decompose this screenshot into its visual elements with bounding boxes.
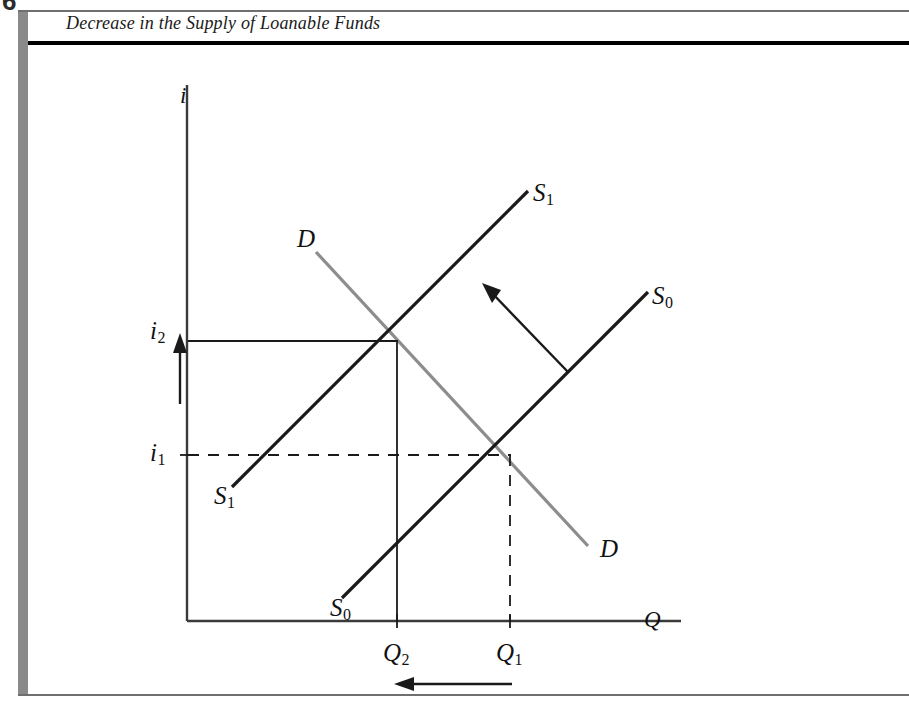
tick-label-i2: i2	[150, 318, 165, 346]
curve-label-s1-top-base: S	[533, 179, 546, 206]
tick-label-i2-sub: 2	[157, 329, 166, 346]
curve-label-s0-top-sub: 0	[665, 294, 674, 311]
tick-label-q1-sub: 1	[514, 651, 523, 668]
tick-label-q2-sub: 2	[401, 651, 410, 668]
supply-curve-s1	[232, 191, 528, 487]
tick-label-q2-base: Q	[383, 639, 401, 666]
x-axis-label: Q	[644, 608, 661, 631]
demand-curve	[316, 252, 588, 546]
loanable-funds-chart	[0, 0, 909, 709]
tick-label-q1-base: Q	[496, 639, 514, 666]
curve-label-d-top: D	[297, 226, 315, 251]
quantity-decrease-arrow	[394, 677, 512, 691]
interest-rate-increase-arrow	[173, 333, 187, 404]
curve-label-s1-bottom: S1	[214, 483, 235, 511]
curve-label-s0-bottom-sub: 0	[343, 606, 352, 623]
curve-label-s1-top-sub: 1	[546, 191, 555, 208]
y-axis-label: i	[180, 84, 186, 107]
tick-label-i1-sub: 1	[157, 451, 166, 468]
curve-label-s0-top-base: S	[652, 282, 665, 309]
tick-label-q1: Q1	[496, 640, 523, 668]
tick-label-q2: Q2	[383, 640, 410, 668]
curve-label-s0-top: S0	[652, 283, 673, 311]
curve-label-s1-top: S1	[533, 180, 554, 208]
tick-label-i1-base: i	[150, 439, 157, 466]
curve-label-s0-bottom: S0	[330, 595, 351, 623]
tick-label-i2-base: i	[150, 317, 157, 344]
curve-label-s1-bottom-base: S	[214, 482, 227, 509]
tick-label-i1: i1	[150, 440, 165, 468]
supply-shift-arrow	[482, 283, 568, 372]
curve-label-d-bottom: D	[600, 536, 618, 561]
curve-label-s0-bottom-base: S	[330, 594, 343, 621]
curve-label-s1-bottom-sub: 1	[227, 494, 236, 511]
